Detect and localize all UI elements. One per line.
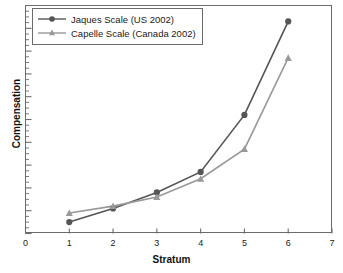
chart-container: 01234567 Stratum Compensation Jaques Sca… xyxy=(0,0,343,273)
legend-marker-circle-icon xyxy=(37,13,67,25)
x-tick-label: 0 xyxy=(16,238,36,248)
x-tick-label: 5 xyxy=(234,238,254,248)
legend-item-capelle: Capelle Scale (Canada 2002) xyxy=(37,26,196,40)
x-axis-title: Stratum xyxy=(0,254,343,265)
x-tick-label: 6 xyxy=(278,238,298,248)
x-tick-label: 2 xyxy=(103,238,123,248)
chart-legend: Jaques Scale (US 2002) Capelle Scale (Ca… xyxy=(32,8,203,45)
legend-label-capelle: Capelle Scale (Canada 2002) xyxy=(71,28,196,39)
x-tick-label: 4 xyxy=(191,238,211,248)
x-tick-label: 7 xyxy=(322,238,342,248)
legend-label-jaques: Jaques Scale (US 2002) xyxy=(71,14,174,25)
x-tick-label: 1 xyxy=(59,238,79,248)
legend-marker-triangle-icon xyxy=(37,27,67,39)
x-tick-label: 3 xyxy=(147,238,167,248)
legend-item-jaques: Jaques Scale (US 2002) xyxy=(37,12,196,26)
y-axis-title: Compensation xyxy=(11,54,22,174)
